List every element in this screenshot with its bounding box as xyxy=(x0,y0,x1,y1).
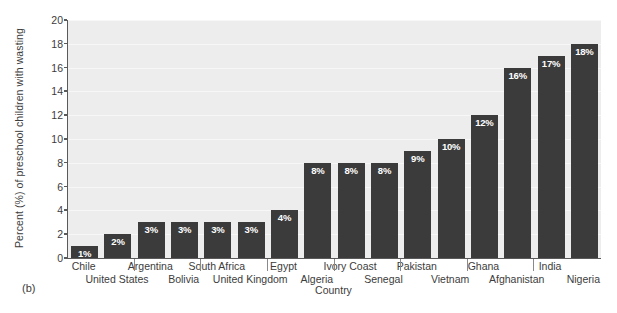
bar-value-label: 10% xyxy=(438,141,465,152)
bar-value-label: 8% xyxy=(371,165,398,176)
bar-value-label: 16% xyxy=(504,70,531,81)
bar-series: 1%2%3%3%3%3%4%8%8%8%9%10%12%16%17%18% xyxy=(68,20,601,258)
x-axis-group-separator xyxy=(533,259,534,271)
y-axis-tick-label: 20 xyxy=(3,15,63,25)
bar: 16% xyxy=(504,68,531,258)
bar-value-label: 3% xyxy=(171,224,198,235)
x-axis-group-separator xyxy=(267,259,268,271)
bar-value-label: 1% xyxy=(71,248,98,259)
bar-value-label: 3% xyxy=(238,224,265,235)
y-axis-tick-label: 12 xyxy=(3,110,63,120)
bar-value-label: 8% xyxy=(338,165,365,176)
bar-value-label: 18% xyxy=(571,46,598,57)
bar-value-label: 4% xyxy=(271,212,298,223)
bar-value-label: 3% xyxy=(204,224,231,235)
bar: 4% xyxy=(271,210,298,258)
panel-caption: (b) xyxy=(22,282,35,294)
x-axis-group-separator xyxy=(400,259,401,271)
bar-value-label: 17% xyxy=(538,58,565,69)
y-axis-tick-label: 10 xyxy=(3,134,63,144)
bar: 2% xyxy=(104,234,131,258)
x-axis-group-separator xyxy=(334,259,335,271)
x-axis-title: Country xyxy=(67,284,600,296)
bar: 8% xyxy=(304,163,331,258)
bar: 1% xyxy=(71,246,98,258)
bar: 18% xyxy=(571,44,598,258)
y-axis-tick-label: 8 xyxy=(3,158,63,168)
bar: 3% xyxy=(171,222,198,258)
y-axis-tick-label: 18 xyxy=(3,39,63,49)
bar: 12% xyxy=(471,115,498,258)
x-axis-tick-label: India xyxy=(490,260,610,272)
x-axis-group-separator xyxy=(200,259,201,271)
bar-value-label: 9% xyxy=(404,153,431,164)
bar: 10% xyxy=(438,139,465,258)
bar: 8% xyxy=(338,163,365,258)
y-axis-tick-label: 2 xyxy=(3,229,63,239)
x-axis-group-separator xyxy=(134,259,135,271)
bar: 3% xyxy=(138,222,165,258)
x-axis-group-separator xyxy=(467,259,468,271)
y-axis-tick-label: 16 xyxy=(3,63,63,73)
y-axis-tick-label: 4 xyxy=(3,205,63,215)
bar: 8% xyxy=(371,163,398,258)
bar-value-label: 2% xyxy=(104,236,131,247)
bar: 3% xyxy=(238,222,265,258)
bar-value-label: 12% xyxy=(471,117,498,128)
y-axis-tick-label: 14 xyxy=(3,86,63,96)
bar-chart-figure: Percent (%) of preschool children with w… xyxy=(0,0,617,313)
bar-value-label: 3% xyxy=(138,224,165,235)
bar-value-label: 8% xyxy=(304,165,331,176)
y-axis-tick-labels: 02468101214161820 xyxy=(0,20,67,258)
plot-area: 1%2%3%3%3%3%4%8%8%8%9%10%12%16%17%18% xyxy=(67,20,601,259)
bar: 17% xyxy=(538,56,565,258)
y-axis-tick-label: 6 xyxy=(3,182,63,192)
bar: 9% xyxy=(404,151,431,258)
bar: 3% xyxy=(204,222,231,258)
